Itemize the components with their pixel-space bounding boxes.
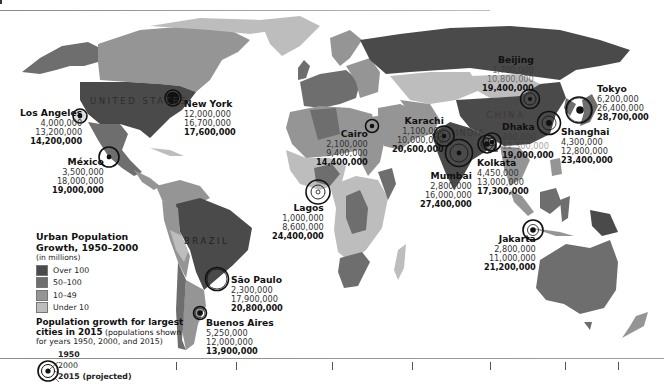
city-name: Los Angeles	[20, 108, 82, 119]
page-tick	[618, 362, 619, 370]
legend-item-label: 50–100	[53, 278, 82, 287]
population-2015: 19,000,000	[52, 186, 104, 195]
legend-growth-title: Population growth for largest cities in …	[36, 318, 186, 337]
city-label-jakarta: Jakarta 2,800,000 11,000,000 21,200,000	[484, 234, 536, 273]
region-central-america	[134, 170, 160, 190]
city-name: Beijing	[482, 55, 534, 66]
population-2015: 13,900,000	[206, 347, 274, 356]
legend-subtitle: (in millions)	[36, 253, 186, 262]
legend-title-line1: Urban Population	[36, 232, 186, 243]
city-name: Cairo	[316, 129, 368, 140]
population-2015: 20,800,000	[231, 304, 283, 313]
bottom-rule	[0, 358, 664, 359]
legend-growth-subtitle: for years 1950, 2000, and 2015)	[36, 337, 186, 346]
city-label-sao-paulo: São Paulo 2,300,000 17,900,000 20,800,00…	[231, 275, 283, 314]
population-2015: 17,300,000	[477, 187, 529, 196]
legend-item-over-100: Over 100	[36, 264, 186, 277]
legend-swatch	[36, 277, 48, 288]
ring-legend: 1950 2000 2015 (projected)	[36, 350, 186, 386]
country-label-brazil: BRAZIL	[184, 236, 229, 246]
city-name: Mumbai	[420, 171, 472, 182]
city-name: São Paulo	[231, 275, 283, 286]
population-2015: 14,400,000	[316, 158, 368, 167]
population-2015: 20,600,000	[392, 145, 444, 154]
page-tick	[236, 362, 237, 370]
legend-swatch	[36, 290, 48, 301]
region-borneo	[540, 188, 562, 214]
map-legend: Urban Population Growth, 1950–2000 (in m…	[36, 232, 186, 386]
ring-label-2015: 2015 (projected)	[58, 372, 132, 381]
population-2015: 17,600,000	[184, 128, 236, 137]
legend-title-line2: Growth, 1950–2000	[36, 243, 186, 254]
region-papua	[590, 210, 618, 236]
country-label-china: CHINA	[486, 110, 526, 120]
population-2000: 12,300,000	[502, 142, 554, 151]
region-uk	[298, 60, 310, 80]
population-2015: 24,400,000	[272, 232, 324, 241]
legend-growth-title-line2: cities in 2015	[36, 327, 103, 337]
legend-item-under-10: Under 10	[36, 302, 186, 315]
population-2015: 23,400,000	[561, 156, 613, 165]
region-scandinavia	[330, 30, 362, 66]
legend-item-label: Under 10	[53, 303, 89, 312]
region-australia	[536, 240, 618, 314]
population-2015: 19,400,000	[482, 84, 534, 93]
city-label-cairo: Cairo 2,100,000 9,400,000 14,400,000	[316, 129, 368, 168]
region-madagascar	[394, 244, 406, 280]
city-name: Jakarta	[484, 234, 536, 245]
population-2000: 10,800,000	[482, 75, 534, 84]
concentric-rings-icon	[36, 359, 60, 383]
region-sulawesi	[560, 196, 570, 222]
country-label-united-states: UNITED STATES	[90, 96, 188, 106]
page-tick	[176, 362, 177, 370]
region-tasmania	[584, 322, 592, 330]
page-tick	[412, 362, 413, 370]
city-name: Dhaka	[502, 122, 554, 133]
city-name: México	[52, 157, 104, 168]
population-2015: 27,400,000	[420, 200, 472, 209]
legend-item-label: Over 100	[53, 266, 89, 275]
city-label-new-york: New York 12,000,000 16,700,000 17,600,00…	[184, 99, 236, 138]
legend-item-label: 10–49	[53, 291, 77, 300]
city-label-shanghai: Shanghai 4,300,000 12,800,000 23,400,000	[561, 127, 613, 166]
region-south-africa	[338, 252, 370, 288]
population-2015: 21,200,000	[484, 263, 536, 272]
city-name: Tokyo	[597, 84, 649, 95]
page-tick	[490, 362, 491, 370]
legend-growth-title-note: (populations shown	[103, 328, 182, 337]
population-2015: 19,000,000	[502, 151, 554, 160]
region-caribbean	[150, 148, 184, 156]
legend-swatch	[36, 302, 48, 313]
city-label-beijing: Beijing 1,700,000 10,800,000 19,400,000	[482, 55, 534, 94]
city-label-mexico: México 3,500,000 18,000,000 19,000,000	[52, 157, 104, 196]
region-greenland	[260, 16, 320, 56]
city-label-mumbai: Mumbai 2,800,000 16,000,000 27,400,000	[420, 171, 472, 210]
city-label-kolkata: Kolkata 4,450,000 13,000,000 17,300,000	[477, 158, 529, 197]
legend-swatch	[36, 265, 48, 276]
legend-item-50-100: 50–100	[36, 277, 186, 290]
country-label-india: INDIA	[456, 128, 485, 138]
page-tick	[332, 362, 333, 370]
city-label-dhaka: Dhaka 400,000 12,300,000 19,000,000	[502, 122, 554, 161]
city-label-tokyo: Tokyo 6,200,000 26,400,000 28,700,000	[597, 84, 649, 123]
population-2015: 14,200,000	[20, 137, 82, 146]
city-label-lagos: Lagos 1,000,000 8,600,000 24,400,000	[272, 203, 324, 242]
ring-label-2000: 2000	[58, 361, 78, 370]
legend-item-10-49: 10–49	[36, 289, 186, 302]
city-label-karachi: Karachi 1,100,000 10,000,000 20,600,000	[392, 116, 444, 155]
region-central-asia	[390, 72, 480, 104]
city-name: Shanghai	[561, 127, 613, 138]
city-name: Buenos Aires	[206, 318, 274, 329]
city-label-buenos-aires: Buenos Aires 5,250,000 12,000,000 13,900…	[206, 318, 274, 357]
city-name: New York	[184, 99, 236, 110]
region-alaska	[22, 42, 100, 74]
region-new-zealand	[622, 312, 648, 338]
city-name: Lagos	[272, 203, 324, 214]
city-name: Karachi	[392, 116, 444, 127]
population-2015: 28,700,000	[597, 113, 649, 122]
region-western-europe	[300, 70, 360, 108]
page-tick	[565, 362, 566, 370]
city-label-los-angeles: Los Angeles 4,000,000 13,200,000 14,200,…	[20, 108, 82, 147]
